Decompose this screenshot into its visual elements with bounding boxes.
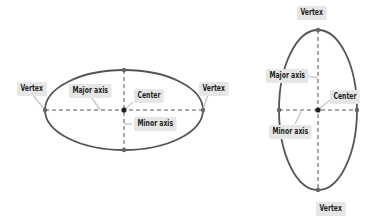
label-vertex-bottom: Vertex (316, 202, 345, 216)
label-vertex-right: Vertex (199, 82, 228, 96)
vertex-point-bottom (316, 188, 320, 192)
horizontal-ellipse (32, 68, 208, 152)
vertex-point-left (43, 108, 47, 112)
vertex-point-right (201, 108, 205, 112)
label-center: Center (134, 89, 164, 103)
leader-major-axis (92, 98, 100, 110)
label-vertex-top: Vertex (297, 6, 326, 20)
label-minor-axis: Minor axis (134, 117, 177, 131)
center-point (315, 107, 320, 112)
covertex-point-bottom (122, 148, 126, 152)
label-major-axis: Major axis (69, 84, 111, 98)
vertical-ellipse (277, 28, 359, 192)
leader-vertex-left (32, 94, 45, 110)
covertex-point-left (277, 108, 281, 112)
ellipse-diagram (0, 0, 378, 224)
vertex-point-top (316, 28, 320, 32)
label-center: Center (330, 90, 360, 104)
leader-major-axis (308, 76, 318, 78)
leader-minor-axis (295, 110, 302, 124)
center-point (121, 107, 126, 112)
label-minor-axis: Minor axis (269, 125, 312, 139)
label-vertex-left: Vertex (17, 82, 46, 96)
leader-vertex-right (203, 94, 208, 110)
covertex-point-top (122, 68, 126, 72)
covertex-point-right (355, 108, 359, 112)
label-major-axis: Major axis (266, 69, 308, 83)
